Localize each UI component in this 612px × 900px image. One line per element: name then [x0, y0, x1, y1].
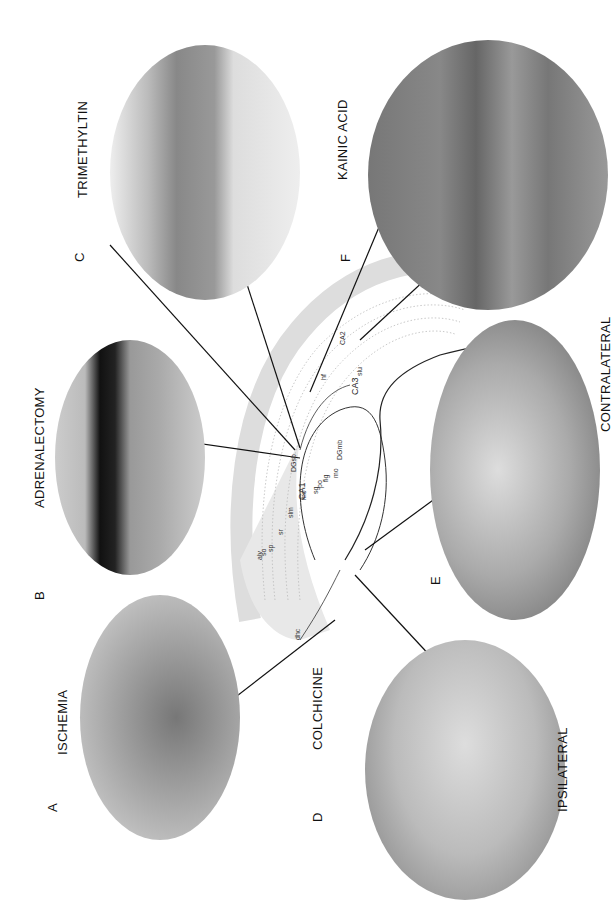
micrograph-adrenalectomy — [55, 340, 205, 575]
label-dgsb: DGsb — [290, 454, 297, 472]
panel-label-contralateral: CONTRALATERAL — [598, 316, 612, 432]
panel-label-trimethyltin: TRIMETHYLTIN — [75, 101, 90, 198]
label-alv: alv — [256, 551, 263, 560]
label-dhc: dhc — [294, 628, 301, 640]
label-fig: fig — [322, 475, 330, 483]
micrograph-ischemia — [80, 595, 240, 840]
label-ca3: CA3 — [350, 377, 360, 395]
label-sr: sr — [277, 529, 284, 536]
label-mo2: mo — [332, 468, 339, 478]
micrograph-kainic-acid — [368, 40, 608, 310]
micrograph-colchicine-ipsilateral — [365, 640, 565, 900]
micrograph-contralateral — [430, 320, 600, 620]
micrograph-trimethyltin — [110, 45, 300, 300]
label-ca2: CA2 — [339, 331, 346, 345]
panel-letter-A: A — [45, 803, 60, 812]
connector-E-contra — [365, 495, 440, 550]
panel-label-colchicine: COLCHICINE — [310, 667, 325, 750]
panel-label-adrenalectomy: ADRENALECTOMY — [32, 387, 47, 508]
label-slm: slm — [287, 507, 294, 518]
panel-letter-B: B — [32, 591, 47, 600]
label-dgmb: DGmb — [336, 440, 343, 460]
panel-letter-E: E — [428, 576, 443, 585]
panel-label-ipsilateral: IPSILATERAL — [555, 727, 570, 812]
panel-letter-C: C — [72, 253, 87, 262]
label-hf: hf — [320, 374, 327, 380]
panel-letter-D: D — [310, 813, 325, 822]
panel-letter-F: F — [338, 254, 353, 262]
panel-label-kainic-acid: KAINIC ACID — [335, 99, 350, 180]
label-slu: slu — [356, 367, 363, 376]
label-mo: mo — [300, 490, 307, 500]
panel-label-ischemia: ISCHEMIA — [55, 690, 70, 755]
label-sp: sp — [267, 545, 275, 553]
